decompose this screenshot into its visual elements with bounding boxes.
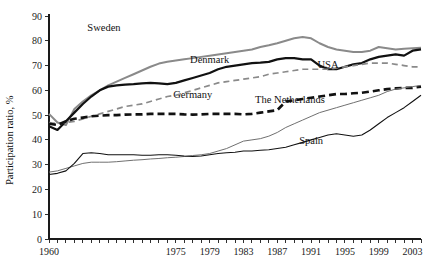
y-tick-label: 40 <box>32 134 42 145</box>
y-tick-label: 10 <box>32 209 42 220</box>
series-label-spain: Spain <box>299 135 324 146</box>
x-tick-label: 1975 <box>166 246 186 257</box>
x-tick-label: 1960 <box>39 246 59 257</box>
x-tick-label: 2003 <box>403 246 423 257</box>
x-axis: 196019751979198319871991199519992003 <box>39 239 423 257</box>
y-axis: 0102030405060708090 <box>32 11 49 245</box>
series-line-the-netherlands <box>49 85 421 172</box>
chart-container: 0102030405060708090 19601975197919831987… <box>0 0 435 276</box>
series-label-sweden: Sweden <box>87 22 121 33</box>
series-label-usa: USA <box>317 59 338 70</box>
line-chart: 0102030405060708090 19601975197919831987… <box>0 0 435 276</box>
y-tick-label: 70 <box>32 60 42 71</box>
series-label-the-netherlands: The Netherlands <box>255 94 325 105</box>
y-tick-label: 60 <box>32 85 42 96</box>
y-tick-label: 20 <box>32 184 42 195</box>
y-tick-label: 80 <box>32 35 42 46</box>
series-line-denmark <box>49 49 421 130</box>
y-tick-label: 0 <box>37 234 42 245</box>
series-line-germany <box>49 87 421 125</box>
series-label-denmark: Denmark <box>190 54 230 65</box>
series-label-germany: Germany <box>173 89 213 100</box>
x-tick-label: 1979 <box>200 246 220 257</box>
y-axis-title: Participation ratio, % <box>4 95 15 185</box>
x-tick-label: 1995 <box>335 246 355 257</box>
series-lines <box>49 37 421 175</box>
x-tick-label: 1999 <box>369 246 389 257</box>
x-tick-label: 1983 <box>233 246 253 257</box>
x-tick-label: 1987 <box>267 246 287 257</box>
y-tick-label: 30 <box>32 159 42 170</box>
x-tick-label: 1991 <box>301 246 321 257</box>
y-tick-label: 50 <box>32 110 42 121</box>
y-tick-label: 90 <box>32 11 42 22</box>
